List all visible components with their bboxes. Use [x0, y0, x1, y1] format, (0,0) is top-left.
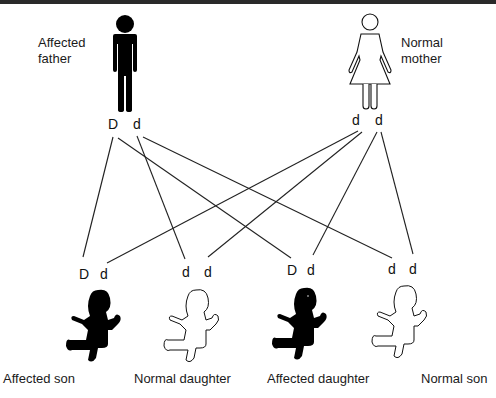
normal-son-label: Normal son: [421, 371, 487, 387]
line-father-D-to-affected-son: [83, 137, 113, 257]
affected-son-label: Affected son: [3, 371, 75, 387]
child3-allele-2: d: [307, 262, 315, 278]
line-mother-d-to-affected-son: [107, 131, 358, 263]
child4-allele-2: d: [409, 261, 417, 277]
mother-label-line2: mother: [401, 51, 443, 67]
normal-daughter-baby-icon: [160, 286, 224, 364]
father-allele-1: D: [108, 116, 118, 132]
line-father-d-to-normal-son: [143, 137, 392, 258]
line-father-D-to-affected-daughter: [118, 138, 291, 258]
line-mother-d-to-normal-daughter: [208, 132, 362, 257]
affected-daughter-label: Affected daughter: [267, 371, 369, 387]
mother-allele-2: d: [375, 112, 383, 128]
normal-mother-icon: [345, 12, 395, 112]
normal-daughter-label: Normal daughter: [134, 371, 231, 387]
normal-son-baby-icon: [368, 282, 432, 360]
mother-label-line1: Normal: [401, 35, 443, 51]
child2-allele-2: d: [204, 264, 212, 280]
father-label-line2: father: [38, 51, 85, 67]
mother-allele-1: d: [352, 112, 360, 128]
father-label: Affected father: [38, 35, 85, 67]
child4-allele-1: d: [388, 261, 396, 277]
affected-son-baby-icon: [62, 286, 126, 364]
line-mother-d-to-affected-daughter: [313, 132, 377, 255]
father-allele-2: d: [133, 116, 141, 132]
father-label-line1: Affected: [38, 35, 85, 51]
child3-allele-1: D: [287, 262, 297, 278]
affected-father-icon: [105, 14, 145, 114]
affected-daughter-baby-icon: [268, 284, 332, 362]
child1-allele-1: D: [79, 266, 89, 282]
child1-allele-2: d: [100, 266, 108, 282]
line-mother-d-to-normal-son: [381, 132, 413, 254]
mother-label: Normal mother: [401, 35, 443, 67]
child2-allele-1: d: [182, 264, 190, 280]
